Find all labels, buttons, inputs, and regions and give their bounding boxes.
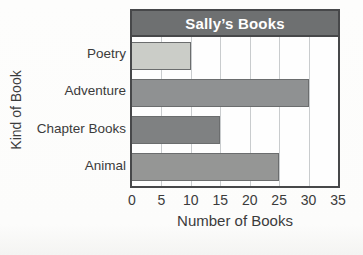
x-tick-label-15: 15 (212, 192, 228, 208)
gridline-25 (279, 37, 280, 186)
category-label-poetry: Poetry (0, 35, 126, 72)
x-tick-label-0: 0 (128, 192, 136, 208)
gridline-30 (309, 37, 310, 186)
x-tick-label-35: 35 (330, 192, 346, 208)
x-tick-label-30: 30 (301, 192, 317, 208)
x-axis-ticks: 05101520253035 (0, 192, 363, 208)
x-tick-label-25: 25 (271, 192, 287, 208)
bar-poetry (132, 42, 191, 70)
x-tick-label-10: 10 (183, 192, 199, 208)
category-labels: PoetryAdventureChapter BooksAnimal (0, 35, 126, 184)
bar-chapter-books (132, 116, 220, 144)
category-label-adventure: Adventure (0, 72, 126, 109)
worksheet-page: Kind of Book PoetryAdventureChapter Book… (0, 0, 363, 255)
plot-area (132, 37, 338, 186)
category-label-chapter-books: Chapter Books (0, 110, 126, 147)
bar-adventure (132, 79, 309, 107)
bar-animal (132, 153, 279, 181)
x-tick-label-5: 5 (158, 192, 166, 208)
bar-chart-frame: Sally’s Books (130, 9, 340, 188)
chart-title: Sally’s Books (185, 15, 285, 32)
x-axis-title: Number of Books (132, 212, 338, 229)
x-tick-label-20: 20 (242, 192, 258, 208)
category-label-animal: Animal (0, 147, 126, 184)
chart-title-bar: Sally’s Books (132, 11, 338, 37)
